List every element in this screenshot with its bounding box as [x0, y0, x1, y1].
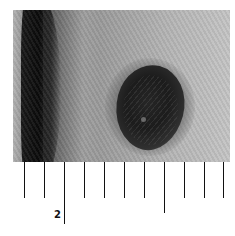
- ruler-tick: [24, 162, 25, 198]
- ruler-tick-major: [64, 162, 65, 224]
- skin-lesion-photo: [13, 10, 230, 162]
- ruler-tick: [184, 162, 185, 198]
- ruler-tick: [223, 162, 224, 198]
- ruler-tick-half: [164, 162, 165, 213]
- ruler-tick: [44, 162, 45, 198]
- ruler-label: 2: [54, 209, 61, 220]
- ruler-tick: [104, 162, 105, 198]
- lesion-highlight: [141, 117, 146, 122]
- ruler-tick: [144, 162, 145, 198]
- ruler-tick: [84, 162, 85, 198]
- ruler-tick: [124, 162, 125, 198]
- lesion-texture: [123, 75, 178, 145]
- ruler-tick: [204, 162, 205, 198]
